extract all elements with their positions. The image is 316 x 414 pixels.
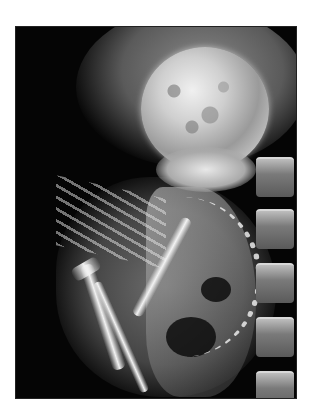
vertebra — [256, 263, 294, 303]
vertebra — [256, 371, 294, 399]
fetal-face — [156, 147, 256, 192]
xray-image — [15, 26, 297, 399]
maternal-spine — [254, 167, 296, 398]
vertebra — [256, 157, 294, 197]
skull-texture — [156, 67, 246, 147]
vertebra — [256, 317, 294, 357]
vertebra — [256, 209, 294, 249]
